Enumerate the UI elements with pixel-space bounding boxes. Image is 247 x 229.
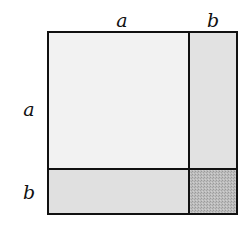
- left-label-a: a: [23, 100, 34, 119]
- ab-right-region: [189, 32, 237, 169]
- ab-bottom-region: [48, 169, 189, 214]
- left-label-b: b: [23, 183, 35, 202]
- b-squared-region: [189, 169, 237, 214]
- top-label-a: a: [116, 11, 127, 30]
- top-label-b: b: [207, 11, 219, 30]
- area-model-diagram: [0, 0, 247, 229]
- a-squared-region: [48, 32, 189, 169]
